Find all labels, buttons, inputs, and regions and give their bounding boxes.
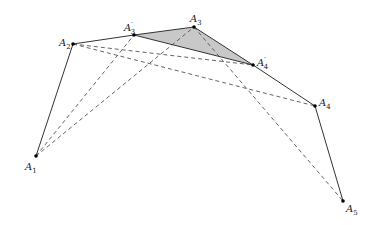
- point-A1: [34, 154, 38, 158]
- label-A1: A1: [24, 161, 37, 175]
- point-A2: [71, 42, 75, 46]
- label-A3: A3: [189, 13, 202, 27]
- dashed-edge-A1-A3p: [36, 35, 134, 156]
- label-A3p: A′3: [123, 21, 135, 36]
- label-A4: A4: [318, 97, 331, 111]
- solid-edge-A1-A2: [36, 44, 73, 156]
- solid-edge-A4-A5: [315, 106, 343, 201]
- dashed-edge-A3-A5: [194, 27, 343, 201]
- solid-edge-A2-A3p: [73, 35, 134, 44]
- point-A4p: [251, 63, 255, 67]
- point-A5: [341, 199, 345, 203]
- label-A2: A2: [58, 37, 71, 51]
- polygon-diagram: A1A2A′3A3A′4A4A5: [0, 0, 372, 225]
- solid-edge-A4p-A4: [253, 65, 315, 106]
- point-A4: [313, 104, 317, 108]
- label-A5: A5: [345, 203, 358, 217]
- point-A3: [192, 25, 196, 29]
